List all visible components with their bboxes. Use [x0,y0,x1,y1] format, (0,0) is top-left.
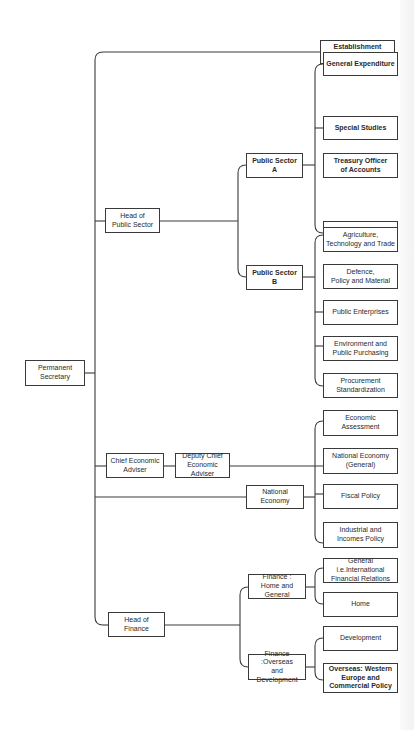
node-head-public-sector: Head of Public Sector [105,208,160,233]
node-general-expenditure: General Expenditure [323,52,398,76]
node-label: Finance :Overseas and Development [251,650,303,685]
node-label: Permanent Secretary [38,364,72,382]
node-public-enterprises: Public Enterprises [323,300,398,325]
node-label: Agriculture, Technology and Trade [326,231,395,249]
node-treasury-officer: Treasury Officer of Accounts [323,153,398,178]
node-industrial-incomes: Industrial and Incomes Policy [323,522,398,548]
node-chief-economic-adviser: Chief Economic Adviser [106,453,164,478]
node-label: Head of Public Sector [112,212,153,230]
node-finance-home-general: Finance : Home and General [248,574,306,599]
node-public-sector-b: Public Sector B [246,265,303,290]
node-label: Procurement Standardization [336,377,385,395]
node-label: General i.e.International Financial Rela… [326,557,395,583]
node-label: National Economy [249,488,301,506]
node-development: Development [323,626,398,651]
node-fiscal-policy: Fiscal Policy [323,484,398,509]
node-label: Special Studies [335,124,387,133]
node-general-international: General i.e.International Financial Rela… [323,558,398,583]
node-label: Head of Finance [124,616,149,634]
node-label: Public Sector B [249,269,300,287]
node-label: Defence, Policy and Material [331,268,390,286]
page-edge [400,0,414,730]
node-label: Economic Assessment [341,414,379,432]
node-label: Home [351,600,370,609]
node-overseas-western: Overseas: Western Europe and Commercial … [323,663,398,693]
node-special-studies: Special Studies [323,116,398,140]
node-national-economy-general: National Economy (General) [323,448,398,474]
node-national-economy: National Economy [246,485,304,509]
node-label: Overseas: Western Europe and Commercial … [329,665,392,691]
node-permanent-secretary: Permanent Secretary [25,360,85,386]
node-head-finance: Head of Finance [108,612,165,637]
node-label: Treasury Officer of Accounts [334,157,388,175]
node-defence: Defence, Policy and Material [323,264,398,289]
node-label: National Economy (General) [332,452,389,470]
node-label: Public Sector A [249,157,300,175]
node-environment: Environment and Public Purchasing [323,336,398,361]
node-deputy-chief: Deputy Chief Economic Adviser [175,453,230,478]
node-public-sector-a: Public Sector A [246,153,303,178]
node-label: Finance : Home and General [251,573,303,599]
node-label: General Expenditure [326,60,394,69]
node-label: Industrial and Incomes Policy [337,526,384,544]
node-label: Deputy Chief Economic Adviser [178,452,227,478]
node-home: Home [323,592,398,617]
node-procurement: Procurement Standardization [323,373,398,398]
node-label: Chief Economic Adviser [110,457,159,475]
node-label: Environment and Public Purchasing [332,340,388,358]
node-label: Public Enterprises [332,308,388,317]
node-economic-assessment: Economic Assessment [323,410,398,436]
node-label: Fiscal Policy [341,492,380,501]
node-agriculture: Agriculture, Technology and Trade [323,227,398,252]
node-label: Development [340,634,381,643]
node-finance-overseas: Finance :Overseas and Development [248,654,306,680]
